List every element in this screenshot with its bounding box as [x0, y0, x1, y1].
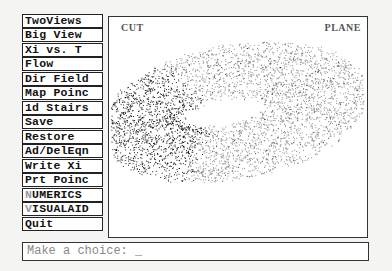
menu-item-flow[interactable]: Flow: [22, 57, 103, 71]
menu-item-dir-field[interactable]: Dir Field: [22, 72, 103, 86]
menu-item-big-view[interactable]: Big View: [22, 28, 103, 42]
menu-item-1d-stairs[interactable]: 1d Stairs: [22, 101, 103, 115]
menu-item-restore[interactable]: Restore: [22, 130, 103, 144]
menu-label-rest: ISUALAID: [32, 202, 89, 215]
menu-item-numerics[interactable]: NUMERICS: [22, 188, 103, 202]
menu-item-visualaid[interactable]: VISUALAID: [22, 202, 103, 216]
menu-item-save[interactable]: Save: [22, 115, 103, 129]
command-prompt[interactable]: Make a choice: _: [22, 242, 369, 261]
menu-item-ad-del-eqn[interactable]: Ad/DelEqn: [22, 144, 103, 158]
menu-item-prt-poinc[interactable]: Prt Poinc: [22, 173, 103, 187]
menu-item-twoviews[interactable]: TwoViews: [22, 14, 103, 28]
menu-item-write-xi[interactable]: Write Xi: [22, 159, 103, 173]
poincare-plot: CUT PLANE: [108, 16, 368, 238]
menu-label-rest: UMERICS: [32, 188, 82, 201]
menu-item-map-poinc[interactable]: Map Poinc: [22, 86, 103, 100]
command-menu: TwoViews Big View Xi vs. T Flow Dir Fiel…: [22, 14, 103, 231]
menu-item-quit[interactable]: Quit: [22, 217, 103, 231]
menu-item-xi-vs-t[interactable]: Xi vs. T: [22, 43, 103, 57]
scatter-points: [109, 17, 367, 237]
